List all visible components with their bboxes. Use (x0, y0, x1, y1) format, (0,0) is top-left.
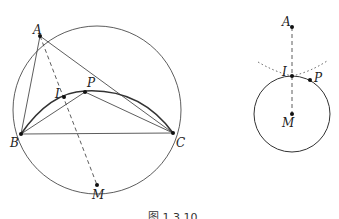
point-I (62, 95, 66, 99)
label-M: M (91, 188, 105, 202)
right-figure (254, 27, 330, 152)
geometry-figure: A B C P I M A I P M 图 1.3.10 (0, 0, 339, 219)
segment-BC (21, 133, 173, 134)
label-M-right: M (281, 116, 295, 130)
right-points (290, 25, 312, 116)
circumcircle (13, 26, 181, 194)
figure-caption: 图 1.3.10 (148, 211, 197, 219)
dashed-AM (40, 36, 97, 185)
dotted-arc-left (258, 62, 292, 76)
point-C (171, 131, 175, 135)
point-P (83, 90, 87, 94)
point-P-right (308, 78, 312, 82)
point-M (95, 183, 99, 187)
label-A: A (32, 23, 42, 37)
left-figure (13, 26, 181, 194)
point-B (19, 132, 23, 136)
label-P-right: P (313, 71, 323, 85)
label-P: P (86, 76, 96, 90)
label-C: C (176, 136, 185, 150)
label-I: I (54, 87, 60, 101)
label-A-right: A (281, 15, 291, 29)
label-B: B (9, 136, 19, 150)
segment-AC (40, 36, 173, 133)
label-I-right: I (281, 65, 287, 79)
segment-AB (21, 36, 40, 134)
point-I-right (290, 74, 294, 78)
